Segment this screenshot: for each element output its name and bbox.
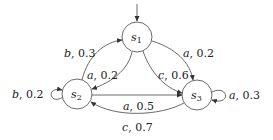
state-s3: s3 [182, 80, 212, 110]
diagram-svg: s1 s2 s3 b, 0.3 a, 0.2 a, 0.2 c, 0.6 b, … [0, 0, 273, 140]
label-s1-s3-a: a, 0.2 [183, 47, 214, 60]
label-s2-s3: a, 0.5 [123, 100, 154, 113]
state-s2: s2 [62, 79, 92, 109]
loop-s3 [212, 90, 226, 101]
label-s2-s1: b, 0.3 [64, 47, 96, 60]
automaton-diagram: s1 s2 s3 b, 0.3 a, 0.2 a, 0.2 c, 0.6 b, … [0, 0, 273, 140]
state-s1: s1 [122, 22, 152, 52]
label-s1-s3-c: c, 0.6 [158, 69, 189, 82]
label-loop-s2: b, 0.2 [12, 88, 44, 101]
label-s3-s2: c, 0.7 [122, 121, 153, 134]
label-s1-s2: a, 0.2 [87, 69, 118, 82]
label-loop-s3: a, 0.3 [229, 89, 260, 102]
loop-s2 [51, 89, 63, 99]
